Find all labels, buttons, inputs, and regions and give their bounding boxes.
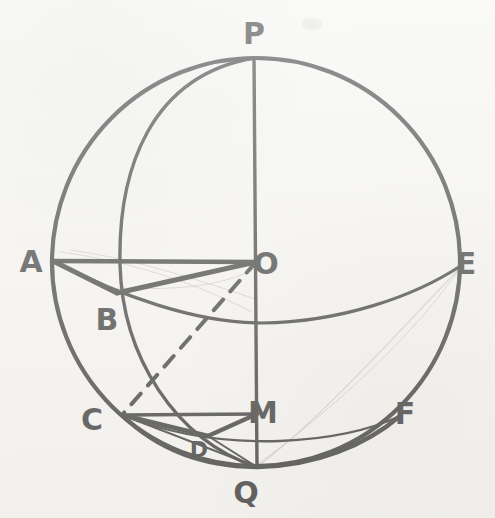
vertex-label-E: E — [456, 246, 477, 281]
vertex-label-O: O — [253, 246, 279, 281]
vertex-label-M: M — [248, 395, 278, 430]
vertex-label-D: D — [190, 437, 208, 462]
vertex-label-F: F — [395, 396, 416, 431]
diagram-canvas: PAOEBCMFDQ — [0, 0, 495, 518]
sphere-diagram: PAOEBCMFDQ — [0, 0, 495, 518]
radius-A-O — [53, 261, 256, 262]
vertex-label-Q: Q — [233, 475, 259, 510]
vertex-label-P: P — [243, 16, 265, 51]
chord-A-B — [53, 261, 117, 293]
paper-smudge — [301, 18, 323, 30]
segment-C-M — [122, 414, 257, 415]
vertex-label-A: A — [19, 244, 43, 279]
vertex-label-B: B — [96, 302, 119, 337]
vertex-label-C: C — [81, 402, 103, 437]
